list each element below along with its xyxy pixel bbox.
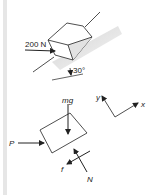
- force-arrow-200n: [25, 50, 55, 51]
- fbd-block: [40, 113, 87, 153]
- incline-line-lower: [33, 57, 54, 72]
- physics-diagram: 200 N 30° mg P f N y x: [0, 0, 150, 195]
- angle-label: 30°: [73, 66, 85, 75]
- normal-label: N: [87, 175, 93, 184]
- angle-marker: [70, 68, 71, 75]
- force-label: 200 N: [25, 40, 47, 49]
- x-axis: [115, 103, 138, 117]
- coordinate-axes: y x: [95, 93, 146, 117]
- friction-arrow: [67, 151, 90, 164]
- x-axis-label: x: [140, 100, 146, 109]
- push-label: P: [9, 139, 15, 148]
- y-axis-label: y: [95, 93, 101, 102]
- incline-line-upper: [85, 12, 100, 27]
- incline-diagram: 200 N 30°: [25, 12, 122, 80]
- friction-label: f: [61, 165, 64, 174]
- y-axis: [102, 96, 115, 117]
- weight-label: mg: [62, 96, 74, 105]
- free-body-diagram: mg P f N: [9, 96, 93, 184]
- normal-force-arrow: [74, 149, 87, 172]
